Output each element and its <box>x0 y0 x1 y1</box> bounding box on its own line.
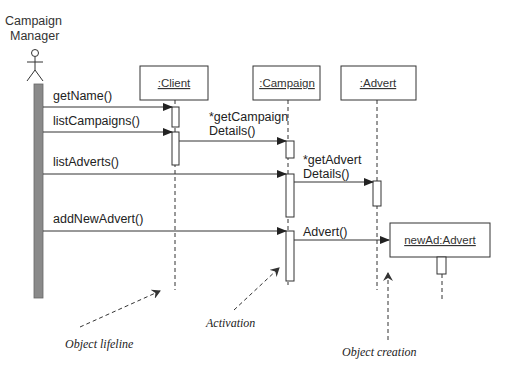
message-listadverts-label: listAdverts() <box>53 155 119 169</box>
annotation-object-creation-label: Object creation <box>342 345 417 359</box>
sequence-diagram: Campaign Manager :Client :Campaign :Adve… <box>0 0 517 375</box>
annotation-object-lifeline-label: Object lifeline <box>65 337 134 351</box>
message-addnewadvert-label: addNewAdvert() <box>53 212 143 226</box>
annotation-activation: Activation <box>205 268 279 330</box>
message-listadverts: listAdverts() <box>43 155 286 174</box>
advert-activation <box>373 181 381 206</box>
annotation-object-lifeline: Object lifeline <box>65 291 160 351</box>
object-newad-advert: newAd:Advert <box>390 223 490 300</box>
newad-activation <box>437 257 446 274</box>
dashed-arrow-icon <box>234 268 279 310</box>
message-advert-constructor: Advert() <box>294 225 389 240</box>
actor-label-line2: Manager <box>10 29 59 43</box>
annotation-object-creation: Object creation <box>342 273 417 359</box>
object-campaign-label: :Campaign <box>259 77 315 89</box>
stick-figure-icon <box>27 50 43 82</box>
message-getadvertdetails-label1: *getAdvert <box>303 153 362 167</box>
campaign-activation-2 <box>286 174 294 217</box>
client-activation-2 <box>172 132 179 165</box>
client-activation-1 <box>172 107 179 127</box>
object-client-label: :Client <box>158 77 191 89</box>
object-advert-label: :Advert <box>360 77 397 89</box>
message-getcampaigndetails-label2: Details() <box>209 124 256 138</box>
object-client: :Client <box>140 66 208 290</box>
message-listcampaigns-label: listCampaigns() <box>53 114 140 128</box>
dashed-arrow-icon <box>80 291 160 327</box>
message-addnewadvert: addNewAdvert() <box>43 212 286 231</box>
message-advert-label: Advert() <box>303 225 347 239</box>
message-listcampaigns: listCampaigns() <box>43 114 172 132</box>
message-getadvertdetails: *getAdvert Details() <box>294 153 373 182</box>
message-getcampaigndetails: *getCampaign Details() <box>179 110 288 141</box>
actor-label-line1: Campaign <box>5 14 62 28</box>
annotation-activation-label: Activation <box>205 316 255 330</box>
campaign-activation-1 <box>286 141 294 158</box>
message-getadvertdetails-label2: Details() <box>303 167 350 181</box>
message-getcampaigndetails-label1: *getCampaign <box>209 110 288 124</box>
campaign-activation-3 <box>286 231 294 281</box>
object-newad-label: newAd:Advert <box>404 234 476 246</box>
actor-activation-bar <box>34 84 43 298</box>
message-getname-label: getName() <box>53 89 112 103</box>
